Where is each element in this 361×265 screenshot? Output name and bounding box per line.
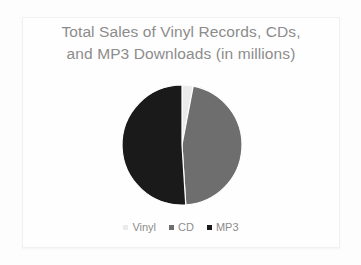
pie-slice-group [122, 85, 242, 205]
chart-title-line-2: and MP3 Downloads (in millions) [32, 43, 330, 65]
pie-slice-mp3[interactable] [122, 85, 186, 205]
chart-title: Total Sales of Vinyl Records, CDs, and M… [32, 21, 330, 65]
legend-item-mp3[interactable]: MP3 [207, 221, 239, 233]
legend-swatch-icon-cd [169, 225, 174, 230]
legend-label: Vinyl [132, 221, 156, 233]
legend-swatch-icon-mp3 [207, 225, 212, 230]
legend-label: CD [178, 221, 194, 233]
pie-chart-svg [112, 75, 252, 215]
legend-label: MP3 [216, 221, 239, 233]
pie-chart [112, 75, 252, 215]
legend-item-vinyl[interactable]: Vinyl [123, 221, 156, 233]
pie-slice-cd[interactable] [182, 86, 242, 205]
legend-item-cd[interactable]: CD [169, 221, 194, 233]
slide-canvas: Total Sales of Vinyl Records, CDs, and M… [0, 0, 361, 265]
chart-legend: VinylCDMP3 [32, 221, 330, 233]
legend-swatch-icon-vinyl [123, 225, 128, 230]
chart-title-line-1: Total Sales of Vinyl Records, CDs, [32, 21, 330, 43]
